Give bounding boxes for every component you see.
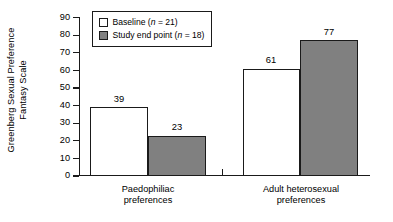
category-label-adult-heterosexual-line-1: Adult heterosexual: [226, 184, 376, 195]
legend-label-baseline-tail: = 21): [156, 17, 178, 27]
legend-label-study-end-point: Study end point (n = 18): [113, 31, 205, 40]
bar-paedophiliac-study-end-point[interactable]: [148, 136, 206, 176]
legend-label-baseline: Baseline (n = 21): [113, 18, 178, 27]
category-label-paedophiliac-line-2: preferences: [73, 195, 223, 206]
legend-item-baseline[interactable]: Baseline (n = 21): [99, 16, 204, 29]
bar-value-adult-heterosexual-baseline: 61: [251, 55, 291, 64]
bar-adult-heterosexual-baseline[interactable]: [243, 69, 300, 176]
category-label-adult-heterosexual-line-2: preferences: [226, 195, 376, 206]
bar-value-paedophiliac-baseline: 39: [99, 94, 139, 103]
bar-chart-figure: Greenberg Sexual Preference Fantasy Scal…: [0, 0, 393, 222]
bar-paedophiliac-baseline[interactable]: [90, 107, 148, 176]
legend-label-study-end-point-tail: = 18): [182, 30, 204, 40]
chart-legend: Baseline (n = 21) Study end point (n = 1…: [92, 11, 212, 47]
category-label-paedophiliac: Paedophiliac preferences: [73, 184, 223, 207]
bar-value-paedophiliac-study-end-point: 23: [157, 122, 197, 131]
category-label-adult-heterosexual: Adult heterosexual preferences: [226, 184, 376, 207]
legend-item-study-end-point[interactable]: Study end point (n = 18): [99, 29, 204, 42]
bar-adult-heterosexual-study-end-point[interactable]: [300, 40, 358, 176]
legend-swatch-study-end-point-icon: [99, 31, 108, 40]
category-label-paedophiliac-line-1: Paedophiliac: [73, 184, 223, 195]
legend-swatch-baseline-icon: [99, 18, 108, 27]
bar-value-adult-heterosexual-study-end-point: 77: [309, 27, 349, 36]
legend-label-baseline-text: Baseline (: [113, 17, 151, 27]
legend-label-study-end-point-text: Study end point (: [113, 30, 178, 40]
